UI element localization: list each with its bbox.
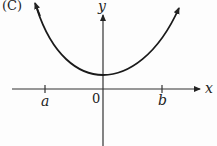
origin-label: 0 bbox=[92, 92, 100, 105]
curve bbox=[37, 8, 179, 75]
y-axis-label: y bbox=[98, 0, 106, 13]
tick-label-a: a bbox=[41, 94, 49, 108]
function-graph: (C) y x 0 a b bbox=[0, 0, 217, 146]
graph-canvas bbox=[0, 0, 217, 146]
curve-left-arrow bbox=[35, 3, 40, 16]
tick-label-b: b bbox=[158, 93, 167, 107]
x-axis-label: x bbox=[205, 81, 213, 95]
panel-label: (C) bbox=[2, 0, 22, 12]
